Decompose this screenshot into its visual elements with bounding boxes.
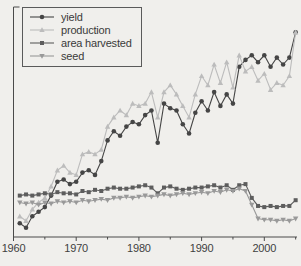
- circle-marker: [262, 53, 267, 58]
- square-marker: [243, 182, 247, 186]
- triangle-up-marker: [130, 101, 135, 106]
- square-marker: [87, 190, 91, 194]
- square-marker: [256, 204, 260, 208]
- triangle-up-marker: [99, 147, 104, 152]
- triangle-down-marker: [105, 198, 110, 203]
- square-marker: [49, 192, 53, 196]
- triangle-down-marker: [149, 195, 154, 200]
- circle-marker: [256, 60, 261, 65]
- circle-marker: [231, 101, 236, 106]
- x-tick-label: 1990: [190, 242, 214, 254]
- circle-marker: [43, 205, 48, 210]
- square-marker: [106, 187, 110, 191]
- triangle-down-marker: [287, 219, 292, 224]
- circle-marker: [193, 111, 198, 116]
- triangle-up-marker: [168, 82, 173, 87]
- circle-marker: [30, 214, 35, 219]
- square-marker: [262, 205, 266, 209]
- triangle-down-marker: [61, 200, 66, 205]
- triangle-up-marker: [142, 101, 147, 106]
- circle-marker: [112, 129, 117, 134]
- triangle-up-marker: [17, 214, 22, 219]
- circle-marker: [149, 108, 154, 113]
- x-tick-label: 1980: [127, 242, 151, 254]
- x-tick-label: 2000: [252, 242, 276, 254]
- circle-marker: [55, 180, 60, 185]
- circle-marker: [224, 92, 229, 97]
- legend-square-sample: [29, 38, 55, 48]
- legend-item-production: production: [29, 24, 132, 36]
- square-marker: [200, 186, 204, 190]
- triangle-down-marker: [274, 219, 279, 224]
- triangle-up-marker: [48, 184, 53, 189]
- triangle-up-marker: [186, 115, 191, 120]
- circle-marker: [218, 104, 223, 109]
- triangle-down-marker: [249, 203, 254, 208]
- circle-marker: [137, 122, 142, 127]
- circle-marker: [275, 55, 280, 60]
- square-marker: [80, 189, 84, 193]
- triangle-down-marker: [205, 191, 210, 196]
- triangle-down-marker: [48, 202, 53, 207]
- square-marker: [40, 41, 44, 45]
- square-marker: [287, 204, 291, 208]
- triangle-up-marker: [237, 53, 242, 58]
- square-marker: [55, 190, 59, 194]
- triangle-up-marker: [42, 195, 47, 200]
- circle-marker: [187, 131, 192, 136]
- x-tick-label: 1960: [2, 242, 26, 254]
- triangle-up-marker: [262, 71, 267, 76]
- square-marker: [74, 192, 78, 196]
- square-marker: [187, 187, 191, 191]
- triangle-up-marker: [86, 149, 91, 154]
- square-marker: [62, 191, 66, 195]
- circle-marker: [268, 65, 273, 70]
- circle-marker: [61, 177, 66, 182]
- legend-label: area harvested: [61, 37, 132, 49]
- triangle-down-marker: [74, 200, 79, 205]
- circle-marker: [243, 58, 248, 63]
- square-marker: [24, 192, 28, 196]
- square-marker: [143, 183, 147, 187]
- triangle-up-marker: [218, 80, 223, 85]
- circle-marker: [168, 106, 173, 111]
- square-marker: [281, 204, 285, 208]
- legend-label: yield: [61, 11, 83, 23]
- triangle-up-marker: [249, 64, 254, 69]
- square-marker: [30, 194, 34, 198]
- circle-marker: [40, 15, 45, 20]
- triangle-down-marker: [86, 199, 91, 204]
- triangle-down-marker: [23, 202, 28, 207]
- square-marker: [149, 186, 153, 190]
- circle-marker: [124, 124, 129, 129]
- square-marker: [168, 184, 172, 188]
- circle-marker: [212, 90, 217, 95]
- square-marker: [212, 183, 216, 187]
- circle-marker: [118, 134, 123, 139]
- circle-marker: [80, 170, 85, 175]
- circle-marker: [24, 226, 29, 231]
- square-marker: [218, 186, 222, 190]
- triangle-up-marker: [61, 163, 66, 168]
- circle-marker: [174, 108, 179, 113]
- circle-marker: [249, 53, 254, 58]
- square-marker: [124, 187, 128, 191]
- triangle-up-marker: [23, 218, 28, 223]
- circle-marker: [287, 55, 292, 60]
- triangle-up-marker: [55, 168, 60, 173]
- circle-marker: [180, 122, 185, 127]
- square-marker: [269, 204, 273, 208]
- circle-marker: [36, 209, 41, 214]
- triangle-up-marker: [224, 59, 229, 64]
- chart-figure: 19601970198019902000 yieldproductionarea…: [0, 0, 301, 266]
- triangle-down-marker: [186, 192, 191, 197]
- square-marker: [206, 184, 210, 188]
- triangle-up-marker: [149, 89, 154, 94]
- circle-marker: [162, 101, 167, 106]
- legend-item-yield: yield: [29, 11, 132, 23]
- square-marker: [137, 184, 141, 188]
- triangle-up-marker: [274, 80, 279, 85]
- x-tick-label: 1970: [64, 242, 88, 254]
- circle-marker: [155, 140, 160, 145]
- square-marker: [68, 191, 72, 195]
